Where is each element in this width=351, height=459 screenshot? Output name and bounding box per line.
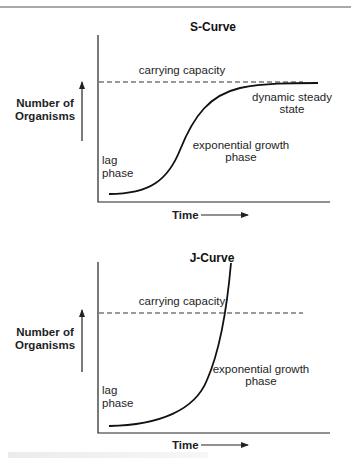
j-curve-ylabel-line1: Number of [16,326,74,338]
j-curve-xlabel: Time [172,439,199,451]
j-curve-title: J-Curve [190,251,235,265]
j-curve-lag-label-line1: lag [102,384,117,396]
s-curve-title: S-Curve [190,20,236,34]
s-curve-capacity-label: carrying capacity [139,64,226,76]
diagram-canvas: S-Curve Number of Organisms carrying cap… [0,0,351,459]
s-curve-steady-label-line2: state [280,103,305,115]
j-curve-exp-label-line1: exponential growth [213,363,310,375]
s-curve-exp-label-line1: exponential growth [193,139,290,151]
s-curve-xlabel: Time [172,209,199,221]
s-curve-ylabel-line1: Number of [16,97,74,109]
j-curve-lag-label-line2: phase [102,397,133,409]
j-curve-exp-label-line2: phase [245,375,276,387]
s-curve-ylabel-line2: Organisms [15,110,75,122]
cropped-caption-stub [8,452,208,458]
j-curve-capacity-label: carrying capacity [139,295,226,307]
j-curve-ylabel-line2: Organisms [15,339,75,351]
s-curve-lag-label-line2: phase [102,167,133,179]
j-curve-chart: J-Curve Number of Organisms carrying cap… [15,251,330,451]
s-curve-exp-label-line2: phase [225,151,256,163]
s-curve-lag-label-line1: lag [102,154,117,166]
s-curve-steady-label-line1: dynamic steady [252,91,332,103]
s-curve-chart: S-Curve Number of Organisms carrying cap… [15,20,332,221]
